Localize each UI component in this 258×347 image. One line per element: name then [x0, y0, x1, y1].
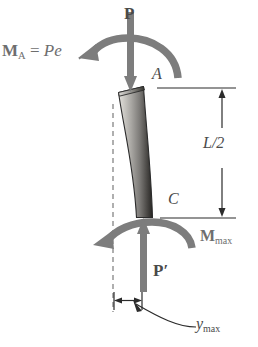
- label-moment-top: MA = Pe: [2, 42, 62, 61]
- label-moment-top-expression: Pe: [44, 41, 62, 60]
- label-moment-top-symbol: M: [2, 41, 18, 60]
- label-moment-top-equals: =: [26, 41, 44, 60]
- label-moment-max-subscript: max: [215, 235, 232, 246]
- label-deflection-max: ymax: [196, 316, 220, 334]
- label-load-bottom: P′: [153, 262, 168, 279]
- figure-canvas: MA = Pe P A L/2 C Mmax P′ ymax: [0, 0, 258, 347]
- label-length-half: L/2: [203, 135, 224, 151]
- load-arrow-p: [124, 12, 137, 92]
- label-moment-top-subscript: A: [18, 50, 26, 61]
- load-arrow-p-prime: [137, 218, 150, 292]
- label-deflection-max-subscript: max: [203, 323, 220, 334]
- label-load-top: P: [124, 5, 134, 22]
- label-moment-max-symbol: M: [200, 227, 215, 244]
- label-moment-max: Mmax: [200, 228, 232, 246]
- label-point-a: A: [152, 66, 162, 82]
- dimension-l-over-2: [219, 89, 226, 217]
- column-member: [119, 87, 153, 218]
- label-point-c: C: [168, 191, 179, 207]
